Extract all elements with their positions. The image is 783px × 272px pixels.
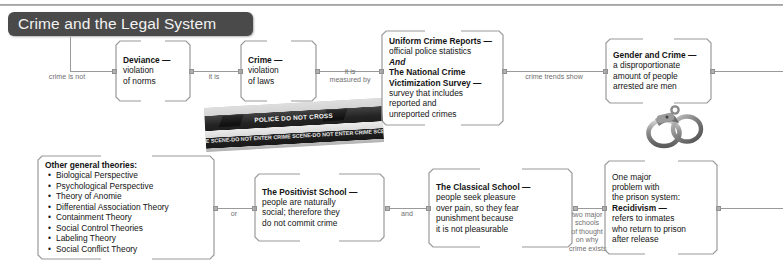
concept-map-canvas: Crime and the Legal System <box>0 0 783 272</box>
node-other-general-theories[interactable]: Other general theories: Biological Persp… <box>37 155 215 260</box>
node-heading: Crime — <box>248 55 309 65</box>
node-text: Uniform Crime Reports — official police … <box>389 36 496 119</box>
node-heading: Uniform Crime Reports — <box>389 36 496 46</box>
list-item: Social Control Theories <box>56 223 207 234</box>
node-conjunction: And <box>389 57 496 67</box>
list-item: Biological Perspective <box>56 170 207 181</box>
wire-label-two-major-schools: two major schools of thought on why crim… <box>569 211 605 253</box>
node-line: survey that includes <box>389 88 496 98</box>
node-line: amount of people <box>613 71 704 81</box>
tape-gloss <box>204 98 384 152</box>
node-line: after release <box>612 234 710 244</box>
node-heading: The Positivist School — <box>262 187 377 197</box>
map-title-pill[interactable]: Crime and the Legal System <box>8 12 253 36</box>
page-title: Crime and the Legal System <box>18 15 216 33</box>
node-text: Deviance — violation of norms <box>123 55 183 86</box>
node-line: the prison system: <box>612 192 710 202</box>
list-item: Theory of Anomie <box>56 192 207 203</box>
list-item: Psychological Perspective <box>56 181 207 192</box>
node-recidivism[interactable]: One major problem with the prison system… <box>604 160 718 255</box>
node-text: Other general theories: Biological Persp… <box>45 160 207 255</box>
node-line: arrested are men <box>613 81 704 91</box>
node-line: a disproportionate <box>613 61 704 71</box>
wire-title-to-deviance <box>70 37 115 71</box>
wire-label-and: and <box>390 210 424 218</box>
node-gender-and-crime[interactable]: Gender and Crime — a disproportionate am… <box>605 38 712 104</box>
node-line: people are naturally <box>262 197 377 207</box>
node-line: punishment because <box>436 213 565 223</box>
node-line: reported and <box>389 99 496 109</box>
node-heading: Recidivism — <box>612 202 710 212</box>
node-heading: Deviance — <box>123 55 183 65</box>
handcuffs-photo <box>645 101 707 149</box>
list-item: Labeling Theory <box>56 234 207 245</box>
node-heading-2a: The National Crime <box>389 68 496 78</box>
node-line: problem with <box>612 181 710 191</box>
node-text: One major problem with the prison system… <box>612 171 710 244</box>
wire-label-it-is: it is <box>192 73 236 81</box>
node-line: over pain, so they fear <box>436 203 565 213</box>
node-heading-2b: Victimization Survey — <box>389 78 496 88</box>
node-line: social; therefore they <box>262 208 377 218</box>
node-classical-school[interactable]: The Classical School — people seek pleas… <box>428 168 573 248</box>
node-heading: Gender and Crime — <box>613 50 704 60</box>
node-line: One major <box>612 171 710 181</box>
node-positivist-school[interactable]: The Positivist School — people are natur… <box>254 173 385 242</box>
node-text: The Classical School — people seek pleas… <box>436 182 565 234</box>
node-text: Gender and Crime — a disproportionate am… <box>613 50 704 92</box>
wire-label-it-is-measured-by: it is measured by <box>322 68 378 85</box>
node-text: The Positivist School — people are natur… <box>262 187 377 229</box>
node-line: who return to prison <box>612 223 710 233</box>
node-heading: Other general theories: <box>45 160 207 170</box>
node-text: Crime — violation of laws <box>248 55 309 86</box>
node-heading: The Classical School — <box>436 182 565 192</box>
handcuffs-icon <box>645 101 707 149</box>
wire-label-crime-is-not: crime is not <box>28 73 106 81</box>
list-item: Social Conflict Theory <box>56 244 207 255</box>
node-line: unreported crimes <box>389 109 496 119</box>
node-line: official police statistics <box>389 47 496 57</box>
list-item: Differential Association Theory <box>56 202 207 213</box>
node-uniform-crime-reports[interactable]: Uniform Crime Reports — official police … <box>381 30 504 126</box>
node-crime[interactable]: Crime — violation of laws <box>240 40 317 102</box>
police-crime-scene-tape-photo: POLICE DO NOT CROSS E SCENE-DO NOT ENTER… <box>204 98 384 152</box>
nub-classical-right <box>573 206 578 211</box>
node-line: violation <box>248 66 309 76</box>
node-line: people seek pleasure <box>436 192 565 202</box>
node-deviance[interactable]: Deviance — violation of norms <box>115 40 191 102</box>
top-divider-rule <box>0 4 783 6</box>
node-line: of norms <box>123 76 183 86</box>
list-item: Containment Theory <box>56 213 207 224</box>
node-line: it is not pleasurable <box>436 224 565 234</box>
theories-list: Biological Perspective Psychological Per… <box>45 170 207 255</box>
nub-positivist-right <box>385 206 390 211</box>
node-line: violation <box>123 66 183 76</box>
node-line: of laws <box>248 76 309 86</box>
wire-label-crime-trends-show: crime trends show <box>506 73 602 81</box>
node-line: do not commit crime <box>262 218 377 228</box>
node-line: refers to inmates <box>612 213 710 223</box>
wire-label-or: or <box>218 210 250 218</box>
